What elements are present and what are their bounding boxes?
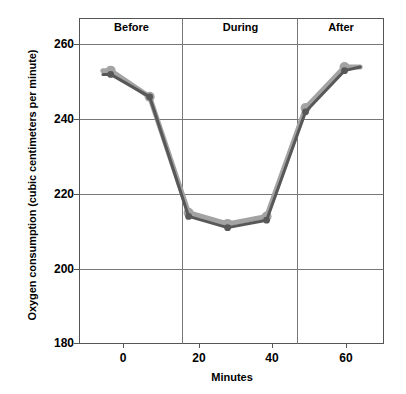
x-tick-20: 20	[179, 352, 219, 364]
x-axis-tick-labels: 0 20 40 60	[0, 0, 406, 394]
x-axis-title: Minutes	[80, 371, 384, 383]
x-tick-60: 60	[326, 352, 366, 364]
x-tick-40: 40	[252, 352, 292, 364]
chart-figure: Oxygen consumption (cubic centimeters pe…	[0, 0, 406, 394]
x-tick-0: 0	[103, 352, 143, 364]
